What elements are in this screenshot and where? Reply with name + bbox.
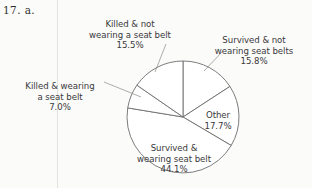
pie-label-value: 15.5% [78,40,182,50]
pie-label-text-line1: Survived & [151,143,198,153]
pie-label-text-line1: Survived & not [222,35,285,45]
pie-label-value: 44.1% [128,164,220,174]
pie-label-text-line2: a seat belt [37,92,82,102]
pie-label-survived-not-wearing-seat-belts: Survived & not wearing seat belts 15.8% [200,25,308,77]
pie-label-text-line2: wearing a seat belt [89,30,171,40]
pie-label-text-line2: wearing seat belt [137,154,211,164]
pie-label-value: 15.8% [200,56,308,66]
pie-label-text-line2: wearing seat belts [215,46,293,56]
pie-label-killed-not-wearing-seat-belt: Killed & not wearing a seat belt 15.5% [78,9,182,61]
pie-label-value: 7.0% [12,102,108,112]
pie-label-text-line1: Killed & not [105,19,154,29]
pie-label-text-line1: Killed & wearing [25,81,94,91]
pie-label-text-line1: Other [206,110,230,120]
pie-label-survived-wearing-seat-belt: Survived & wearing seat belt 44.1% [128,133,220,185]
pie-label-killed-wearing-seat-belt: Killed & wearing a seat belt 7.0% [12,71,108,123]
pie-label-value: 17.7% [196,121,240,131]
figure-canvas: 17. a. Killed & not wearing a seat belt … [0,0,312,188]
